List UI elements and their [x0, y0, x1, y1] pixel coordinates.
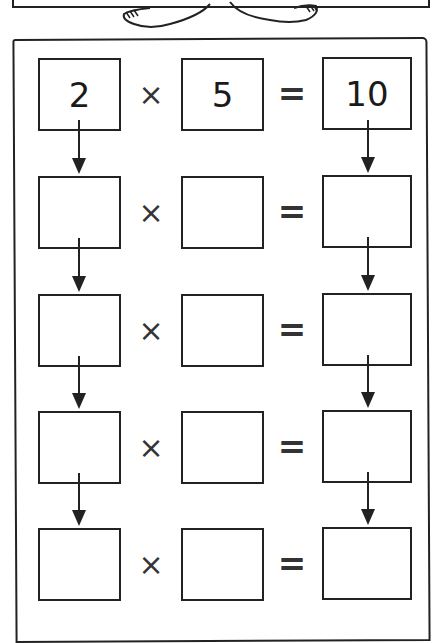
equals-sign: =	[277, 194, 307, 228]
times-sign: ×	[136, 433, 166, 463]
equals-sign: =	[277, 546, 307, 580]
times-sign: ×	[136, 550, 166, 580]
equals-sign: =	[277, 429, 307, 463]
down-arrow-icon	[367, 355, 369, 406]
down-arrow-icon	[78, 120, 80, 172]
factor-a-box-5[interactable]	[38, 528, 121, 601]
times-sign: ×	[136, 198, 166, 228]
down-arrow-icon	[367, 237, 369, 289]
feet-illustration-icon	[110, 0, 330, 32]
times-sign: ×	[136, 80, 166, 110]
factor-b-box-4[interactable]	[181, 411, 264, 484]
down-arrow-icon	[78, 473, 80, 524]
down-arrow-icon	[367, 472, 369, 523]
down-arrow-icon	[78, 356, 80, 407]
down-arrow-icon	[78, 238, 80, 290]
result-box-5[interactable]	[322, 527, 412, 600]
factor-b-box-3[interactable]	[181, 294, 264, 367]
times-sign: ×	[136, 316, 166, 346]
equals-sign: =	[277, 76, 307, 110]
factor-b-box-5[interactable]	[181, 528, 264, 601]
factor-b-box-1[interactable]: 5	[181, 58, 264, 131]
down-arrow-icon	[367, 120, 369, 171]
equals-sign: =	[277, 312, 307, 346]
factor-b-box-2[interactable]	[181, 176, 264, 249]
